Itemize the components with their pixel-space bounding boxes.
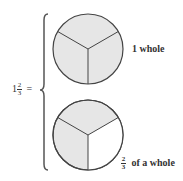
top-circle <box>53 14 123 84</box>
top-label: 1 whole <box>132 43 165 54</box>
bottom-circle <box>53 100 123 170</box>
numerator: 2 <box>18 82 22 89</box>
curly-brace <box>40 14 48 170</box>
mixed-number-equation: 123 = <box>12 82 32 97</box>
equals-sign: = <box>27 83 33 94</box>
bottom-label: 23 of a whole <box>121 156 175 171</box>
fraction: 23 <box>17 82 22 97</box>
label-text: of a whole <box>132 157 175 168</box>
label-fraction: 23 <box>121 156 126 171</box>
denominator: 3 <box>18 90 22 97</box>
